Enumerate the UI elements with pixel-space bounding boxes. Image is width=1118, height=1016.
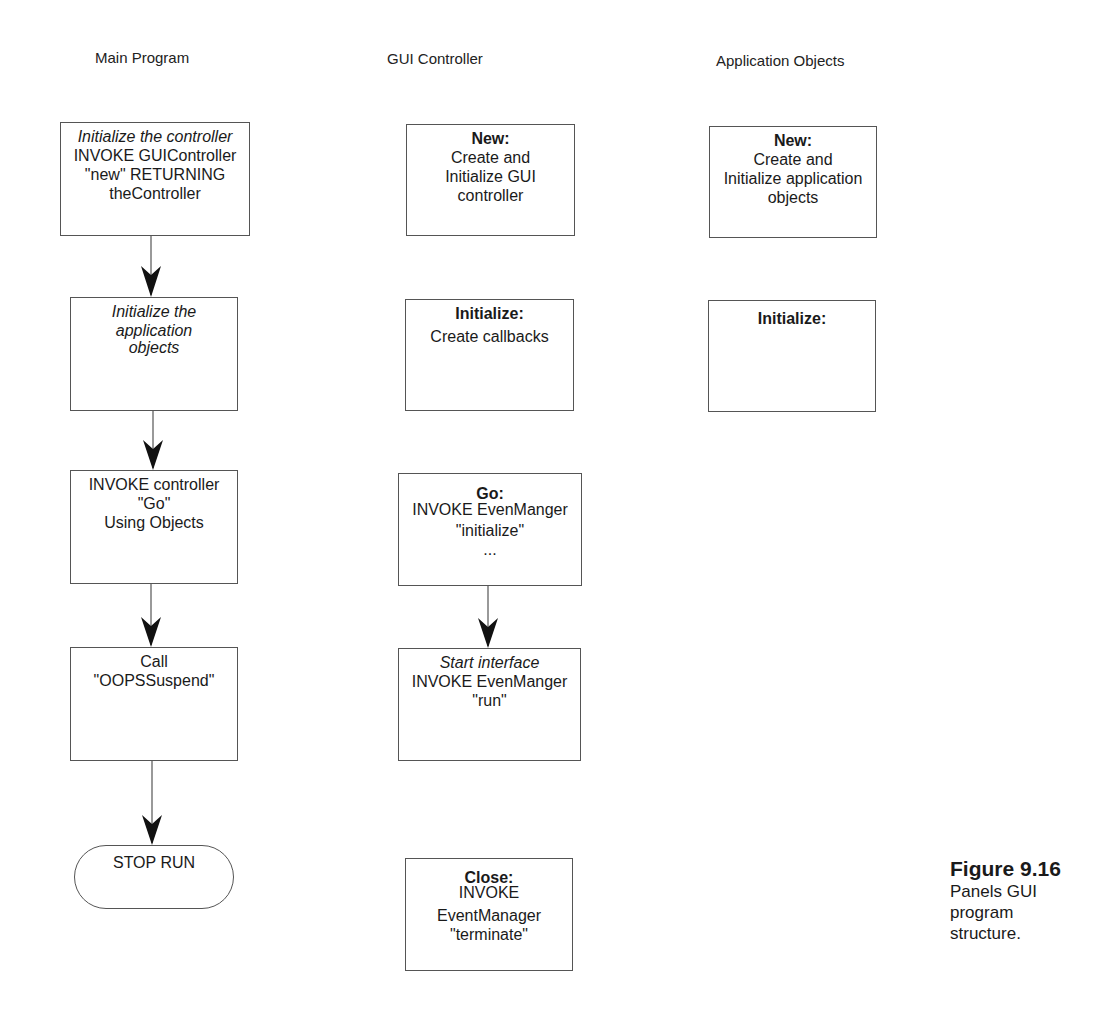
box-line: theController	[61, 184, 249, 203]
box-line: "initialize"	[399, 521, 581, 540]
box-line: application	[71, 321, 237, 340]
box-line: Initialize application	[710, 169, 876, 188]
box-line: Create and	[407, 148, 574, 167]
box-line: EventManager	[406, 906, 572, 925]
box-line: Initialize:	[406, 304, 573, 323]
main-box-initialize-controller: Initialize the controller INVOKE GUICont…	[60, 122, 250, 236]
box-line: Close:	[406, 871, 572, 885]
gui-box-start-interface: Start interface INVOKE EvenManger "run"	[398, 648, 581, 761]
box-line: Initialize GUI	[407, 167, 574, 186]
gui-box-go: Go: INVOKE EvenManger "initialize" ...	[398, 473, 582, 586]
box-line: Create and	[710, 150, 876, 169]
main-box-call-suspend: Call "OOPSSuspend"	[70, 647, 238, 761]
box-line: "OOPSSuspend"	[71, 671, 237, 690]
box-line: Initialize:	[709, 309, 875, 328]
box-line: Go:	[399, 486, 581, 502]
box-line: ...	[399, 540, 581, 559]
gui-box-close: Close: INVOKE EventManager "terminate"	[405, 858, 573, 971]
figure-caption-text: Panels GUI program structure.	[950, 881, 1060, 944]
box-line: Initialize the controller	[61, 127, 249, 146]
figure-caption: Figure 9.16 Panels GUI program structure…	[950, 857, 1061, 944]
box-line: Call	[71, 652, 237, 671]
box-line: "new" RETURNING	[61, 165, 249, 184]
box-line: "terminate"	[406, 925, 572, 944]
box-line: INVOKE	[406, 885, 572, 901]
box-line: INVOKE GUIController	[61, 146, 249, 165]
main-box-initialize-app-objects: Initialize the application objects	[70, 297, 238, 411]
figure-number: Figure 9.16	[950, 857, 1061, 881]
box-line: New:	[407, 129, 574, 148]
terminal-label: STOP RUN	[113, 854, 195, 871]
app-box-new: New: Create and Initialize application o…	[709, 126, 877, 238]
gui-box-new: New: Create and Initialize GUI controlle…	[406, 124, 575, 236]
box-line: Start interface	[399, 653, 580, 672]
box-line: New:	[710, 131, 876, 150]
box-line: INVOKE EvenManger	[399, 502, 581, 518]
box-line: controller	[407, 186, 574, 205]
box-line: objects	[71, 340, 237, 355]
gui-box-initialize: Initialize: Create callbacks	[405, 299, 574, 411]
box-line: INVOKE controller	[71, 475, 237, 494]
app-box-initialize: Initialize:	[708, 300, 876, 412]
box-line: Initialize the	[71, 302, 237, 321]
box-line: Create callbacks	[406, 327, 573, 346]
terminal-stop-run: STOP RUN	[74, 845, 234, 909]
box-line: "Go"	[71, 494, 237, 513]
box-line: objects	[710, 188, 876, 207]
box-line: "run"	[399, 691, 580, 710]
box-line: Using Objects	[71, 513, 237, 532]
box-line: INVOKE EvenManger	[399, 672, 580, 691]
main-box-invoke-go: INVOKE controller "Go" Using Objects	[70, 470, 238, 584]
